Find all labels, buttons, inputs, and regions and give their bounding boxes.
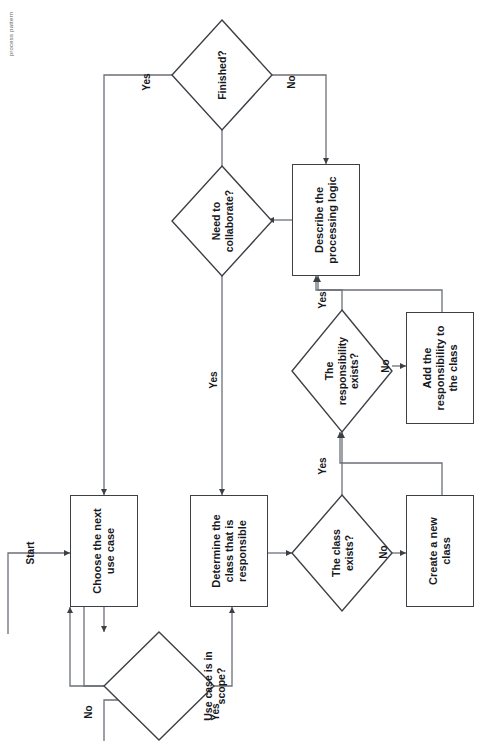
node-determine-class: Determine the class that is responsible [190, 495, 268, 607]
node-label: Finished? [216, 50, 229, 100]
node-choose-next-use-case: Choose the next use case [70, 495, 138, 607]
node-need-to-collaborate: Need to collaborate? [172, 166, 272, 276]
node-label: Create a new class [427, 517, 453, 585]
node-label: Describe the processing logic [313, 176, 339, 263]
edge-label-collaborate-yes: Yes [208, 371, 219, 388]
node-label: The responsibility exists? [323, 337, 361, 405]
edge-label-finished-no: No [286, 75, 297, 88]
node-responsibility-exists: The responsibility exists? [292, 310, 392, 432]
edge-label-inscope-yes: Yes [210, 703, 221, 720]
node-label: Choose the next use case [91, 508, 117, 594]
start-label: Start [25, 542, 36, 565]
node-create-new-class: Create a new class [406, 495, 474, 607]
node-label: Determine the class that is responsible [210, 514, 249, 587]
flowchart-canvas: process pattern [0, 0, 484, 755]
node-describe-processing-logic: Describe the processing logic [292, 164, 360, 276]
edge-label-classexists-yes: Yes [317, 457, 328, 474]
node-label: Need to collaborate? [210, 190, 235, 252]
node-add-responsibility: Add the responsibility to the class [406, 312, 474, 424]
edge-label-respexists-no: No [380, 359, 391, 372]
edge-label-classexists-no: No [378, 545, 389, 558]
edge-label-inscope-no: No [83, 705, 94, 718]
node-finished: Finished? [172, 20, 272, 130]
edge-label-respexists-yes: Yes [317, 291, 328, 308]
edge-label-finished-yes: Yes [141, 73, 152, 90]
node-label: Add the responsibility to the class [421, 326, 460, 411]
figure-caption: process pattern [7, 0, 15, 69]
node-label: The class exists? [330, 529, 355, 577]
